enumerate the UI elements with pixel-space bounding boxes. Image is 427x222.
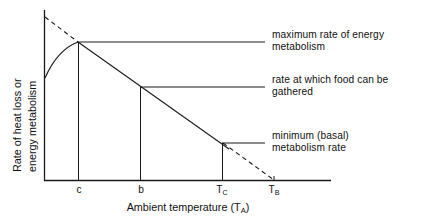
- extrapolation-upper-dashed: [45, 17, 78, 42]
- annotation-basal-metabolism-rate: minimum (basal) metabolism rate: [272, 130, 349, 155]
- tick-label-tc-main: T: [216, 184, 222, 195]
- x-axis-title: Ambient temperature (TA): [44, 201, 332, 213]
- x-axis-title-close: ): [246, 201, 250, 213]
- annotation-food-gathering-rate: rate at which food can be gathered: [272, 74, 388, 99]
- heat-loss-curve: [45, 42, 78, 78]
- annotation-food-gathering-rate-line2: gathered: [272, 86, 388, 98]
- tick-label-tb-main: T: [268, 184, 274, 195]
- annotation-basal-metabolism-rate-line2: metabolism rate: [272, 142, 349, 154]
- figure-root: Rate of heat loss or energy metabolism c…: [0, 0, 427, 222]
- tick-label-c: c: [64, 184, 94, 195]
- y-axis-title-line2: energy metabolism: [25, 78, 40, 172]
- extrapolation-lower-dashed: [223, 143, 274, 180]
- y-axis-title-line1: Rate of heat loss or: [10, 78, 25, 172]
- x-axis-title-sub: A: [241, 206, 246, 215]
- energy-metabolism-line: [78, 42, 229, 149]
- tick-label-c-main: c: [76, 184, 81, 195]
- tick-label-tc: TC: [207, 184, 237, 196]
- tick-label-b-main: b: [138, 184, 144, 195]
- tick-label-tc-sub: C: [223, 188, 228, 197]
- annotation-basal-metabolism-rate-line1: minimum (basal): [272, 130, 349, 142]
- annotation-food-gathering-rate-line1: rate at which food can be: [272, 74, 388, 86]
- annotation-maximum-rate-line1: maximum rate of energy: [272, 29, 384, 41]
- tick-label-tb-sub: B: [275, 188, 280, 197]
- y-axis-title: Rate of heat loss or energy metabolism: [10, 78, 39, 172]
- tick-label-b: b: [126, 184, 156, 195]
- annotation-maximum-rate-line2: metabolism: [272, 41, 384, 53]
- x-axis-title-main: Ambient temperature (T: [127, 201, 241, 213]
- tick-label-tb: TB: [259, 184, 289, 196]
- annotation-maximum-rate: maximum rate of energy metabolism: [272, 29, 384, 54]
